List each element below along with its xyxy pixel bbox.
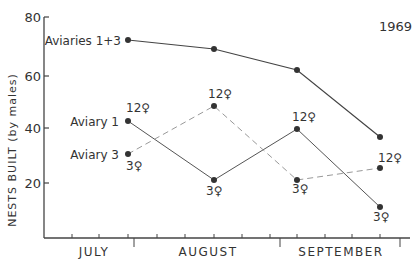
label-aviary-1: Aviary 1 <box>70 115 119 129</box>
aviary-3-point-3-label: 3♀ <box>292 182 308 196</box>
aviary-1-point-2-label: 3♀ <box>206 184 222 198</box>
series-aviary-1 <box>125 118 383 210</box>
aviary-1-point-1-label: 12♀ <box>126 101 150 115</box>
y-axis-title: NESTS BUILT (by males) <box>6 73 19 227</box>
month-august: AUGUST <box>178 245 237 259</box>
month-september: SEPTEMBER <box>298 245 383 259</box>
y-tick-20: 20 <box>24 176 41 191</box>
series-aviaries-1-3 <box>125 37 383 140</box>
aviary-3-point-2-label: 12♀ <box>208 87 232 101</box>
aviary-3-point-1-label: 3♀ <box>126 159 142 173</box>
month-july: JULY <box>78 245 110 259</box>
label-aviary-3: Aviary 3 <box>70 148 119 162</box>
y-tick-60: 60 <box>24 69 41 84</box>
y-tick-40: 40 <box>24 121 41 136</box>
aviary-1-point-4-label: 3♀ <box>373 210 389 224</box>
aviary-1-point-3-label: 12♀ <box>292 110 316 124</box>
label-aviaries-1-3: Aviaries 1+3 <box>45 34 121 48</box>
series-aviary-3 <box>125 103 383 183</box>
nests-built-chart: 80 60 40 20 NESTS BUILT (by males) JULY … <box>0 0 418 265</box>
y-tick-80: 80 <box>24 10 41 25</box>
year-annotation: 1969 <box>379 19 412 34</box>
aviary-3-point-4-label: 12♀ <box>378 151 402 165</box>
